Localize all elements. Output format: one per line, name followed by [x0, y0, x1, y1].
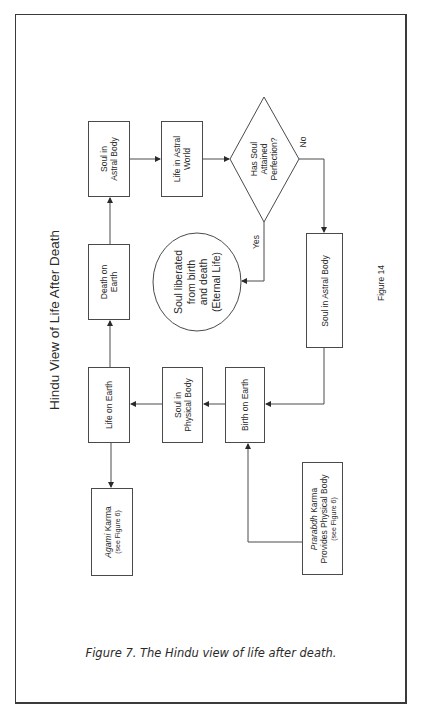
- arrow-astral-right-to-birth: [266, 348, 324, 404]
- arrow-no-to-astral-right: [299, 159, 324, 232]
- arrow-prarabdh-to-birth: [248, 444, 302, 542]
- figure-caption: Figure 7. The Hindu view of life after d…: [15, 646, 407, 660]
- node-soul-in-physical-body: Soul in Physical Body: [162, 367, 203, 443]
- diagram-title: Hindu View of Life After Death: [44, 230, 66, 410]
- edge-label-no: No: [298, 137, 308, 148]
- arrow-yes-to-liberated: [242, 222, 264, 281]
- node-soul-in-astral-body-top: Soul in Astral Body: [88, 121, 130, 197]
- node-life-on-earth: Life on Earth: [88, 367, 130, 443]
- node-soul-liberated: Soul liberated from birth and death (Ete…: [153, 233, 241, 331]
- edge-label-yes: Yes: [251, 235, 261, 249]
- node-life-in-astral-world: Life in Astral World: [161, 121, 203, 197]
- node-birth-on-earth: Birth on Earth: [225, 367, 265, 443]
- figure-label: Figure 14: [372, 260, 390, 306]
- node-agami-karma: Agami Karma (see Figure 6): [91, 488, 133, 576]
- node-decision-text: Has Soul Attained Perfection?: [234, 120, 294, 198]
- node-death-on-earth: Death on Earth: [88, 244, 130, 320]
- node-soul-in-astral-body-right: Soul in Astral Body: [306, 233, 343, 348]
- node-prarabdh-karma: Prarabdh Karma Provides Physical Body (s…: [302, 462, 343, 575]
